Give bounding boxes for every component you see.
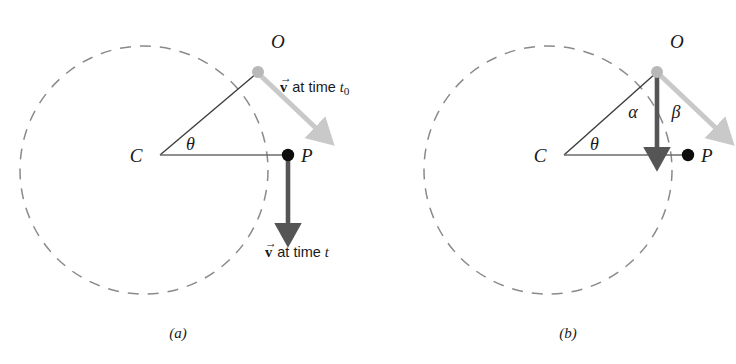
velocity-label-text: at time [288,79,340,95]
radius-line-CO [160,73,257,155]
vector-symbol-v: →v [265,245,273,260]
point-label-P: P [700,145,713,166]
panel-b-canvas: C O P θ α β (b) [368,0,736,364]
velocity-label-text: at time [273,244,325,260]
point-label-C: C [534,145,547,166]
point-marker-P [682,149,694,161]
panel-caption-a: (a) [169,325,187,342]
point-marker-O [651,66,663,78]
point-marker-O [252,66,264,78]
time-variable: t [325,244,329,260]
panel-b: C O P θ α β (b) [368,0,736,364]
velocity-label-t: →v at time t [265,245,329,262]
panel-caption-b: (b) [559,325,577,342]
figure-root: C O P θ (a) →v at time t0 →v at time t [0,0,736,364]
angle-label-alpha: α [628,102,638,122]
angle-label-theta: θ [590,134,599,154]
point-label-P: P [300,145,313,166]
point-label-O: O [670,31,684,52]
panel-a: C O P θ (a) →v at time t0 →v at time t [0,0,368,364]
dashed-circle-path [20,46,268,294]
vector-arrow-accent: → [265,238,272,250]
angle-label-theta: θ [186,134,195,154]
velocity-label-t0: →v at time t0 [280,80,350,97]
angle-label-beta: β [671,102,681,122]
panel-a-canvas: C O P θ (a) [0,0,368,364]
velocity-vector-t0 [661,76,719,131]
dashed-circle-path [424,46,672,294]
point-label-O: O [271,31,285,52]
point-marker-P [282,149,294,161]
vector-symbol-v: →v [280,80,288,95]
time-subscript: 0 [344,85,350,97]
radius-line-CO [564,73,656,155]
point-label-C: C [130,145,143,166]
vector-arrow-accent: → [280,73,287,85]
